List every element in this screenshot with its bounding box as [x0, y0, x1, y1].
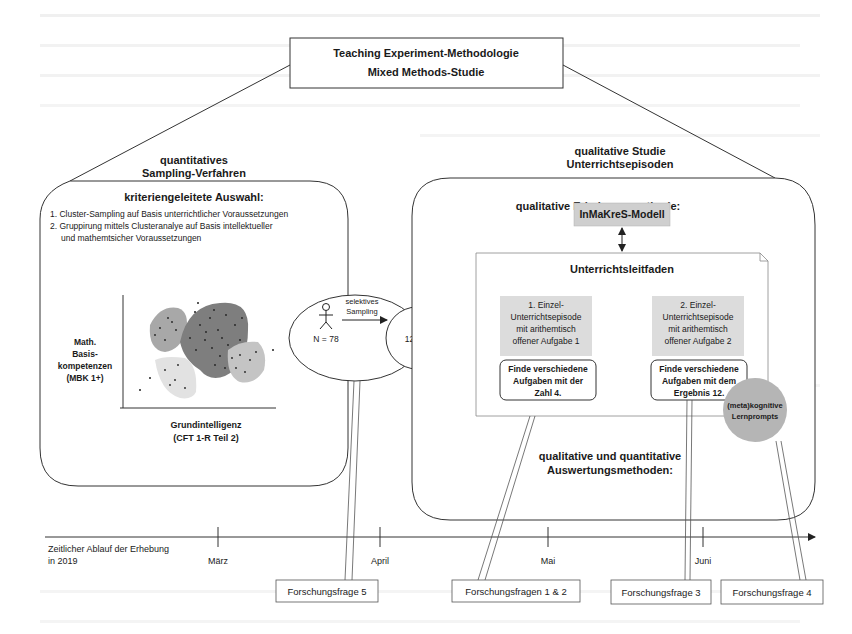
episode-1-line2: Unterrichtsepisode — [511, 312, 582, 322]
episode-2-line3: mit arithemtisch — [668, 324, 728, 334]
analysis-line2: Auswertungsmethoden: — [547, 464, 673, 476]
prompts-line1: (meta)kognitive — [727, 401, 782, 410]
title-line1: Teaching Experiment-Methodologie — [333, 47, 519, 59]
timeline: Zeitlicher Ablauf der Erhebung in 2019 M… — [45, 527, 815, 566]
criteria-item-1: 1. Cluster-Sampling auf Basis unterricht… — [50, 209, 288, 219]
task-1-line2: Aufgaben mit der — [513, 376, 584, 386]
task-2-line3: Ergebnis 12. — [674, 388, 725, 398]
task-2-line1: Finde verschiedene — [659, 364, 739, 374]
rq5-label: Forschungsfrage 5 — [287, 586, 366, 597]
month-maerz: März — [208, 556, 228, 566]
title-line2: Mixed Methods-Studie — [368, 66, 485, 78]
methodology-diagram: Teaching Experiment-Methodologie Mixed M… — [0, 0, 852, 634]
lesson-guide-title: Unterrichtsleitfaden — [570, 263, 674, 275]
prompts-line2: Lernprompts — [732, 412, 778, 421]
plot-ylabel-1: Math. — [74, 337, 96, 347]
month-juni: Juni — [695, 556, 712, 566]
plot-ylabel-4: (MBK 1+) — [66, 373, 103, 383]
n-total-label: N = 78 — [313, 334, 339, 344]
task-2-line2: Aufgaben mit dem — [662, 376, 737, 386]
qualitative-heading-line1: qualitative Studie — [574, 145, 665, 157]
analysis-line1: qualitative und quantitative — [539, 450, 681, 462]
plot-xlabel-1: Grundintelligenz — [171, 420, 242, 430]
timeline-label-line2: in 2019 — [48, 556, 78, 566]
episode-2-line2: Unterrichtsepisode — [663, 312, 734, 322]
episode-2-line1: 2. Einzel- — [680, 300, 716, 310]
research-questions: Forschungsfrage 5 Forschungsfragen 1 & 2… — [276, 580, 823, 604]
inmakres-model-label: InMaKreS-Modell — [579, 208, 664, 220]
criteria-title: kriteriengeleitete Auswahl: — [124, 191, 264, 203]
episode-1-line3: mit arithemtisch — [516, 324, 576, 334]
quantitative-heading-line2: Sampling-Verfahren — [142, 167, 246, 179]
criteria-item-2: 2. Gruppirung mittels Clusteranalye auf … — [50, 221, 273, 231]
plot-xlabel-2: (CFT 1-R Teil 2) — [173, 433, 238, 443]
qualitative-heading-line2: Unterrichtsepisoden — [567, 158, 674, 170]
selective-sampling-line1: selektives — [346, 297, 379, 306]
episode-2-line4: offener Aufgabe 2 — [665, 336, 732, 346]
task-1-line1: Finde verschiedene — [508, 364, 588, 374]
metacognitive-prompts-circle — [723, 378, 787, 442]
task-1-line3: Zahl 4. — [535, 388, 562, 398]
episode-1-line1: 1. Einzel- — [528, 300, 564, 310]
rq4-label: Forschungsfrage 4 — [732, 587, 811, 598]
plot-ylabel-2: Basis- — [72, 349, 98, 359]
qualitative-study-box: qualitative Erhebungsmethode: InMaKreS-M… — [412, 178, 815, 520]
quantitative-heading-line1: quantitatives — [160, 154, 228, 166]
criteria-item-2-cont: und mathemtsicher Voraussetzungen — [61, 233, 202, 243]
month-mai: Mai — [541, 556, 556, 566]
month-april: April — [371, 556, 389, 566]
title-box: Teaching Experiment-Methodologie Mixed M… — [290, 38, 563, 88]
episode-1: 1. Einzel- Unterrichtsepisode mit arithe… — [500, 296, 596, 400]
plot-ylabel-3: kompetenzen — [58, 361, 112, 371]
episode-1-line4: offener Aufgabe 1 — [513, 336, 580, 346]
rq3-label: Forschungsfrage 3 — [621, 587, 700, 598]
selective-sampling-line2: Sampling — [346, 307, 377, 316]
rq1-2-label: Forschungsfragen 1 & 2 — [465, 586, 566, 597]
timeline-label-line1: Zeitlicher Ablauf der Erhebung — [48, 544, 169, 554]
episode-2: 2. Einzel- Unterrichtsepisode mit arithe… — [651, 296, 747, 400]
